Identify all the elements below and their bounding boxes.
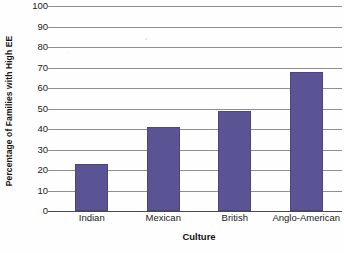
y-axis-title-label: Percentage of Families with High EE: [4, 36, 14, 186]
bar: [147, 127, 180, 211]
bars-layer: [56, 6, 342, 211]
y-axis-tick-mark: [48, 170, 56, 171]
y-axis-tick-mark: [48, 211, 56, 212]
y-axis-tick-label: 100: [20, 1, 48, 11]
y-axis-title: Percentage of Families with High EE: [0, 0, 18, 222]
x-axis-tick-labels: IndianMexicanBritishAnglo-American: [56, 212, 342, 226]
plot-area: [56, 6, 342, 211]
y-axis-tick-mark: [48, 47, 56, 48]
bar: [290, 72, 323, 211]
y-axis-tick-labels: 0102030405060708090100: [20, 6, 48, 211]
y-axis-tick-marks: [48, 6, 56, 211]
y-axis-tick-mark: [48, 129, 56, 130]
plot-wrapper: 0102030405060708090100: [20, 6, 342, 216]
x-axis-tick-label: British: [199, 212, 271, 224]
y-axis-tick-label: 10: [20, 186, 48, 196]
y-axis-tick-mark: [48, 191, 56, 192]
y-axis-tick-label: 70: [20, 63, 48, 73]
y-axis-tick-label: 40: [20, 124, 48, 134]
y-axis-tick-mark: [48, 150, 56, 151]
y-axis-tick-label: 0: [20, 206, 48, 216]
y-axis-tick-label: 60: [20, 83, 48, 93]
y-axis-tick-label: 50: [20, 104, 48, 114]
y-axis-tick-mark: [48, 88, 56, 89]
bar: [75, 164, 108, 211]
y-axis-tick-label: 30: [20, 145, 48, 155]
x-axis-tick-label: Mexican: [128, 212, 200, 224]
y-axis-tick-label: 80: [20, 42, 48, 52]
y-axis-tick-mark: [48, 109, 56, 110]
bar-chart: Percentage of Families with High EE 0102…: [0, 0, 344, 253]
y-axis-tick-mark: [48, 6, 56, 7]
y-axis-tick-mark: [48, 68, 56, 69]
x-axis-title: Culture: [56, 231, 342, 242]
bar: [218, 111, 251, 211]
y-axis-tick-label: 20: [20, 165, 48, 175]
y-axis-tick-mark: [48, 27, 56, 28]
x-axis-tick-label: Anglo-American: [271, 212, 343, 224]
x-axis-tick-label: Indian: [56, 212, 128, 224]
y-axis-tick-label: 90: [20, 22, 48, 32]
x-axis-title-label: Culture: [182, 231, 215, 242]
